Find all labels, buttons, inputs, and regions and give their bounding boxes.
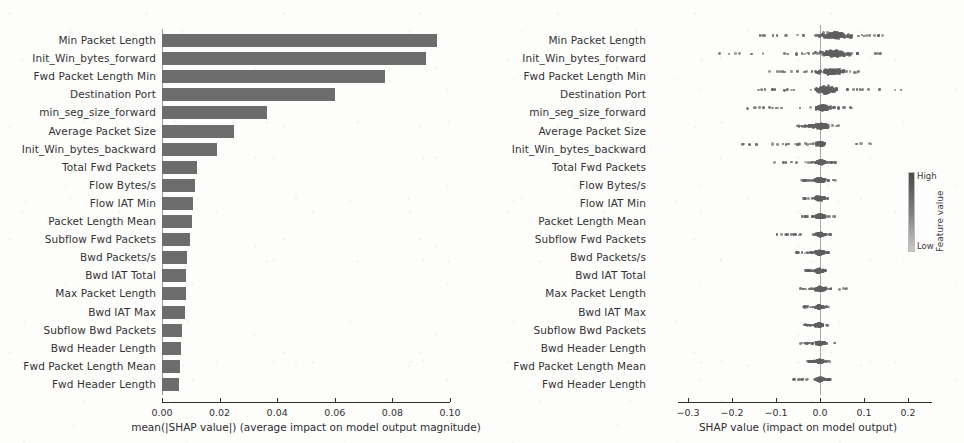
beeswarm-dot — [801, 52, 804, 55]
beeswarm-dot — [821, 378, 824, 381]
beeswarm-dot — [806, 215, 808, 217]
bar — [162, 52, 426, 65]
beeswarm-dot — [801, 125, 804, 128]
bar — [162, 143, 217, 156]
beeswarm-row — [500, 46, 964, 62]
bar — [162, 161, 197, 174]
bar-chart-y-label: Bwd Packets/s — [80, 251, 156, 263]
beeswarm-dot — [763, 34, 766, 37]
beeswarm-x-tick — [820, 398, 821, 402]
bar-chart-y-label: Subflow Bwd Packets — [44, 324, 156, 336]
beeswarm-dot — [799, 233, 802, 236]
beeswarm-dot — [805, 288, 807, 290]
bar — [162, 125, 234, 138]
beeswarm-dot — [799, 107, 801, 109]
beeswarm-dot — [817, 196, 820, 199]
beeswarm-dot — [797, 378, 800, 381]
beeswarm-dot — [810, 89, 812, 91]
beeswarm-dot — [790, 89, 792, 91]
beeswarm-dot — [830, 33, 832, 35]
bar-chart-y-label: Min Packet Length — [58, 34, 156, 46]
beeswarm-dot — [827, 179, 830, 182]
bar-chart-x-tick — [335, 398, 336, 402]
beeswarm-dot — [772, 34, 774, 36]
beeswarm-axis-line — [678, 402, 932, 403]
bar — [162, 306, 185, 319]
beeswarm-dot — [805, 378, 808, 381]
bar-chart-y-label: Fwd Header Length — [52, 378, 156, 390]
beeswarm-dot — [792, 233, 795, 236]
beeswarm-row — [500, 318, 964, 334]
beeswarm-dot — [821, 233, 824, 236]
bar-chart-x-tick — [220, 398, 221, 402]
beeswarm-dot — [868, 34, 871, 37]
beeswarm-dot — [823, 34, 825, 36]
beeswarm-dot — [796, 143, 799, 146]
beeswarm-dot — [746, 107, 749, 110]
beeswarm-dot — [829, 72, 831, 74]
bar-chart-y-label: Flow Bytes/s — [89, 179, 156, 191]
bar-chart-y-label: Subflow Fwd Packets — [45, 233, 156, 245]
beeswarm-x-tick-label: −0.2 — [720, 407, 743, 418]
beeswarm-dot — [790, 70, 793, 73]
beeswarm-dot — [873, 34, 876, 37]
beeswarm-dot — [834, 215, 836, 217]
bar-chart-y-label: Fwd Packet Length Min — [33, 70, 156, 82]
beeswarm-dot — [808, 360, 811, 363]
beeswarm-dot — [879, 52, 882, 55]
beeswarm-dot — [867, 88, 870, 91]
beeswarm-dot — [748, 143, 751, 146]
beeswarm-dot — [816, 127, 819, 130]
beeswarm-dot — [823, 125, 826, 128]
bar-chart-y-label: Bwd IAT Max — [88, 306, 156, 318]
beeswarm-dot — [764, 88, 767, 91]
beeswarm-dot — [824, 197, 827, 200]
beeswarm-dot — [826, 324, 829, 327]
beeswarm-dot — [768, 70, 771, 73]
beeswarm-dot — [787, 143, 790, 146]
beeswarm-dot — [826, 378, 829, 381]
beeswarm-dot — [790, 161, 792, 163]
beeswarm-dot — [780, 107, 783, 110]
beeswarm-dot — [847, 52, 850, 55]
beeswarm-x-tick-label: 0.1 — [856, 407, 871, 418]
bar — [162, 378, 179, 391]
bar-chart-y-label: Bwd IAT Total — [85, 269, 156, 281]
beeswarm-dot — [822, 287, 824, 289]
beeswarm-x-tick — [864, 398, 865, 402]
beeswarm-row — [500, 28, 964, 44]
beeswarm-dot — [827, 197, 829, 199]
bar-chart-y-label: Init_Win_bytes_backward — [22, 143, 156, 155]
beeswarm-dot — [806, 305, 809, 308]
beeswarm-dot — [823, 142, 825, 144]
beeswarm-dot — [776, 233, 778, 235]
beeswarm-row — [500, 119, 964, 135]
beeswarm-dot — [785, 161, 787, 163]
colorbar-low-label: Low — [917, 241, 934, 251]
beeswarm-dot — [750, 53, 753, 56]
bar-chart-axis-line — [162, 402, 450, 403]
bar — [162, 215, 192, 228]
beeswarm-dot — [796, 252, 798, 254]
bar-chart-panel: Min Packet LengthInit_Win_bytes_forwardF… — [0, 0, 500, 443]
beeswarm-dot — [808, 161, 811, 164]
beeswarm-dot — [877, 34, 879, 36]
beeswarm-dot — [834, 342, 836, 344]
bar — [162, 324, 182, 337]
beeswarm-dot — [774, 88, 777, 91]
beeswarm-dot — [782, 143, 785, 146]
beeswarm-dot — [830, 86, 833, 89]
bar — [162, 269, 186, 282]
shap-figure: Min Packet LengthInit_Win_bytes_forwardF… — [0, 0, 964, 443]
beeswarm-dot — [755, 143, 758, 146]
beeswarm-row — [500, 137, 964, 153]
beeswarm-dot — [761, 89, 763, 91]
beeswarm-dot — [738, 52, 741, 55]
bar — [162, 287, 186, 300]
beeswarm-dot — [734, 52, 737, 55]
beeswarm-dot — [728, 53, 730, 55]
beeswarm-dot — [793, 378, 796, 381]
beeswarm-dot — [865, 34, 868, 37]
colorbar-gradient — [908, 172, 915, 252]
bar-chart-x-tick-label: 0.00 — [151, 407, 172, 418]
